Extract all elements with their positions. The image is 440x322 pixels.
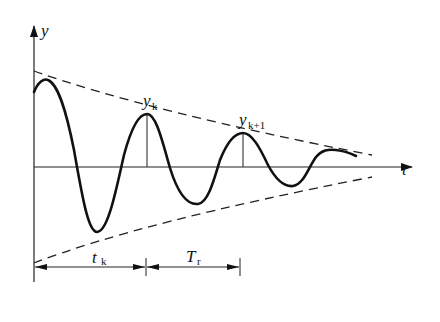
svg-text:k+1: k+1 [248, 119, 265, 131]
peak-k1-label: y k+1 [237, 110, 265, 131]
damped-oscillation-diagram: y t y k y k+1 t k T r [0, 0, 440, 322]
t-axis-label: t [402, 160, 408, 179]
time-to-peak-label: t k [92, 248, 107, 267]
upper-envelope [34, 71, 372, 155]
svg-text:k: k [101, 255, 107, 267]
svg-text:t: t [92, 248, 98, 267]
y-axis-label: y [39, 21, 49, 40]
lower-envelope [34, 177, 372, 263]
svg-text:T: T [186, 247, 197, 266]
svg-text:k: k [152, 100, 158, 112]
response-curve [34, 80, 356, 233]
svg-text:y: y [141, 91, 151, 110]
period-label: T r [186, 247, 201, 267]
svg-text:y: y [237, 110, 247, 129]
peak-k-label: y k [141, 91, 158, 112]
svg-text:r: r [197, 255, 201, 267]
